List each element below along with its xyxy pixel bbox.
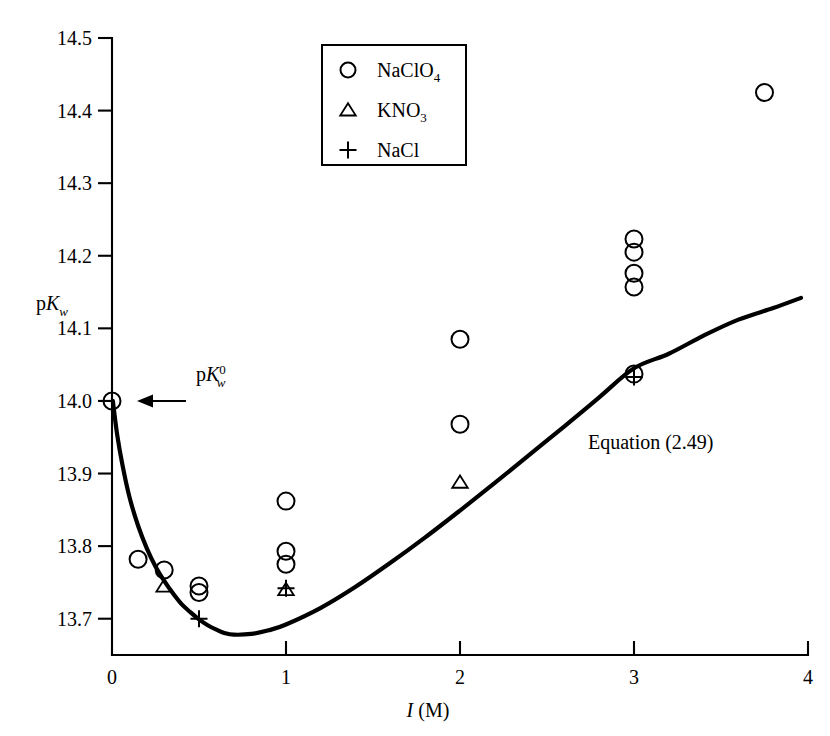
legend: NaClO4 KNO3 NaCl: [322, 45, 466, 165]
legend-label-kno3: KNO: [377, 99, 420, 121]
annotation-subscript: w: [217, 375, 226, 390]
y-tick-label-14.3: 14.3: [57, 172, 92, 194]
y-axis-title-subscript: w: [59, 304, 68, 319]
annotation-prefix: p: [196, 363, 206, 386]
y-tick-label-14.4: 14.4: [57, 100, 92, 122]
y-tick-label-14.2: 14.2: [57, 245, 92, 267]
x-tick-label-1: 1: [281, 666, 291, 688]
x-tick-label-3: 3: [629, 666, 639, 688]
x-tick-label-4: 4: [803, 666, 813, 688]
x-axis-title-unit: (M): [413, 699, 449, 722]
y-axis-title-prefix: p: [36, 292, 46, 315]
pkw-vs-ionic-strength-scatter-plot: 13.713.813.914.014.114.214.314.414.5 012…: [0, 0, 830, 736]
chart-figure: 13.713.813.914.014.114.214.314.414.5 012…: [0, 0, 830, 736]
legend-item-nacl: NaCl: [377, 139, 420, 161]
equation-curve-label: Equation (2.49): [588, 431, 714, 454]
y-tick-label-13.7: 13.7: [57, 608, 92, 630]
y-tick-label-14.0: 14.0: [57, 390, 92, 412]
legend-sub-naclo4: 4: [434, 70, 441, 85]
y-axis-tick-labels: 13.713.813.914.014.114.214.314.414.5: [57, 27, 92, 630]
x-tick-label-0: 0: [107, 666, 117, 688]
legend-label-nacl: NaCl: [377, 139, 420, 161]
legend-sub-kno3: 3: [420, 110, 427, 125]
x-axis-title-text: I (M): [406, 699, 450, 722]
x-tick-label-2: 2: [455, 666, 465, 688]
y-tick-label-14.5: 14.5: [57, 27, 92, 49]
y-tick-label-14.1: 14.1: [57, 317, 92, 339]
y-tick-label-13.8: 13.8: [57, 535, 92, 557]
x-axis-title: I (M): [406, 699, 450, 722]
y-tick-label-13.9: 13.9: [57, 463, 92, 485]
legend-label-naclo4: NaClO: [377, 59, 434, 81]
